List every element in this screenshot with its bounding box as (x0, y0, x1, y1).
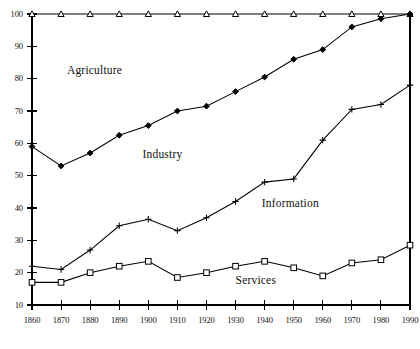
series-annotation: Industry (142, 148, 182, 160)
x-tick-label: 1940 (249, 315, 281, 325)
y-tick-label: 50 (0, 170, 23, 180)
data-point-industry-1890 (116, 132, 122, 138)
data-point-information-1910 (174, 227, 180, 233)
y-tick-label: 20 (0, 267, 23, 277)
data-point-services-1890 (116, 263, 122, 269)
line-chart: 1020304050607080901001860187018801890190… (0, 0, 420, 349)
x-tick-label: 1900 (132, 315, 164, 325)
x-tick-label: 1870 (45, 315, 77, 325)
data-point-services-1990 (407, 242, 413, 248)
data-point-industry-1920 (204, 103, 210, 109)
data-point-services-1880 (87, 270, 93, 276)
data-point-services-1960 (320, 273, 326, 279)
y-tick-label: 80 (0, 73, 23, 83)
x-tick-label: 1960 (307, 315, 339, 325)
series-services (29, 242, 413, 285)
x-tick-label: 1920 (190, 315, 222, 325)
x-tick-label: 1950 (278, 315, 310, 325)
data-point-industry-1860 (29, 144, 35, 150)
data-point-services-1870 (58, 280, 64, 286)
y-tick-label: 30 (0, 235, 23, 245)
data-point-industry-1870 (58, 163, 64, 169)
data-point-services-1940 (262, 259, 268, 265)
chart-plot-area (0, 0, 420, 349)
data-point-information-1990 (407, 82, 413, 88)
x-tick-label: 1890 (103, 315, 135, 325)
y-tick-label: 90 (0, 41, 23, 51)
series-annotation: Services (236, 274, 277, 286)
series-line-industry (32, 14, 410, 166)
data-point-services-1860 (29, 280, 35, 286)
data-point-services-1950 (291, 265, 297, 271)
data-point-industry-1880 (87, 150, 93, 156)
data-point-industry-1900 (145, 123, 151, 129)
data-point-information-1870 (58, 266, 64, 272)
data-point-services-1910 (175, 275, 181, 281)
data-point-services-1900 (146, 259, 152, 265)
x-tick-label: 1910 (161, 315, 193, 325)
series-line-information (32, 85, 410, 269)
series-industry (29, 11, 413, 169)
data-point-industry-1910 (174, 108, 180, 114)
y-tick-label: 70 (0, 106, 23, 116)
y-tick-label: 60 (0, 138, 23, 148)
series-agriculture (29, 11, 413, 17)
series-information (29, 82, 413, 273)
data-point-information-1940 (261, 179, 267, 185)
data-point-industry-1930 (233, 89, 239, 95)
data-point-services-1930 (233, 263, 239, 269)
y-tick-label: 100 (0, 9, 23, 19)
x-tick-label: 1880 (74, 315, 106, 325)
data-point-industry-1940 (262, 74, 268, 80)
y-tick-label: 10 (0, 300, 23, 310)
series-annotation: Information (262, 197, 319, 209)
data-point-industry-1950 (291, 56, 297, 62)
data-point-information-1860 (29, 263, 35, 269)
y-tick-label: 40 (0, 203, 23, 213)
data-point-services-1920 (204, 270, 210, 276)
data-point-information-1980 (378, 101, 384, 107)
x-tick-label: 1930 (220, 315, 252, 325)
x-tick-label: 1990 (394, 315, 420, 325)
x-tick-label: 1980 (365, 315, 397, 325)
data-point-information-1900 (145, 216, 151, 222)
x-tick-label: 1970 (336, 315, 368, 325)
data-point-services-1980 (378, 257, 384, 263)
x-tick-label: 1860 (16, 315, 48, 325)
data-point-services-1970 (349, 260, 355, 266)
data-point-information-1920 (203, 215, 209, 221)
series-annotation: Agriculture (67, 64, 122, 76)
data-point-information-1930 (232, 198, 238, 204)
